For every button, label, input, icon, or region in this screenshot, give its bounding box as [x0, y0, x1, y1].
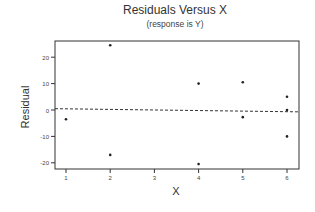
x-tick-label: 2: [109, 175, 113, 181]
plot-frame: [55, 41, 299, 169]
x-tick-label: 6: [285, 175, 289, 181]
x-tick-label: 1: [64, 175, 68, 181]
x-tick-label: 4: [197, 175, 201, 181]
zero-reference-line: [55, 109, 299, 112]
data-points: [65, 44, 289, 165]
x-axis: 123456: [64, 169, 289, 181]
data-point: [109, 154, 112, 157]
x-tick-label: 3: [153, 175, 157, 181]
y-tick-label: 10: [42, 81, 49, 87]
data-point: [242, 116, 245, 119]
y-tick-label: 20: [42, 55, 49, 61]
y-tick-label: -10: [40, 134, 49, 140]
y-axis: 20100-10-20: [40, 55, 55, 167]
data-point: [197, 163, 200, 166]
data-point: [286, 135, 289, 138]
scatter-plot: 20100-10-20 123456: [0, 0, 315, 212]
data-point: [286, 96, 289, 99]
y-tick-label: -20: [40, 160, 49, 166]
x-tick-label: 5: [241, 175, 245, 181]
x-axis-label: X: [172, 185, 179, 197]
data-point: [109, 44, 112, 47]
y-axis-label: Residual: [19, 86, 31, 129]
data-point: [242, 81, 245, 84]
data-point: [197, 82, 200, 85]
y-tick-label: 0: [46, 108, 50, 114]
data-point: [65, 118, 68, 121]
data-point: [286, 109, 289, 112]
